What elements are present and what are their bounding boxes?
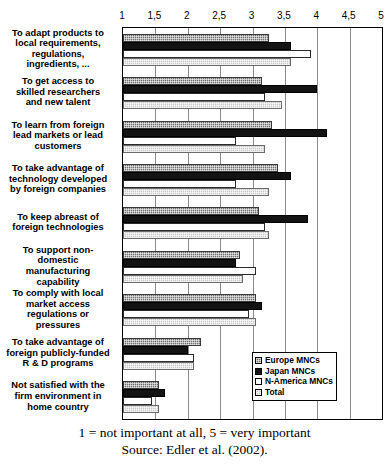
bar bbox=[123, 354, 194, 362]
category-label: To learn from foreignlead markets or lea… bbox=[0, 120, 116, 152]
category-label-line: by foreign companies bbox=[0, 184, 116, 195]
category-label-line: To take advantage of bbox=[0, 163, 116, 174]
category-label-line: To learn from foreign bbox=[0, 120, 116, 131]
category-label-line: regulations, bbox=[0, 49, 116, 60]
category-label-line: market access bbox=[0, 299, 116, 310]
x-tick-label: 1,5 bbox=[141, 10, 167, 22]
bar bbox=[123, 129, 327, 137]
legend-label: Japan MNCs bbox=[265, 367, 315, 376]
category-label-line: ingredients, ... bbox=[0, 59, 116, 70]
bar bbox=[123, 137, 236, 145]
bar bbox=[123, 34, 269, 42]
bar-group bbox=[123, 289, 382, 332]
category-label-line: To comply with local bbox=[0, 288, 116, 299]
x-tick-label: 5 bbox=[368, 10, 389, 22]
bar bbox=[123, 346, 188, 354]
bar bbox=[123, 77, 262, 85]
category-label: To take advantage oftechnology developed… bbox=[0, 163, 116, 195]
x-tick-label: 3,5 bbox=[271, 10, 297, 22]
category-label: To keep abreast offoreign technologies bbox=[0, 212, 116, 233]
bar bbox=[123, 121, 272, 129]
bar bbox=[123, 101, 282, 109]
scale-note: 1 = not important at all, 5 = very impor… bbox=[0, 424, 389, 441]
bar bbox=[123, 164, 278, 172]
category-label-line: customers bbox=[0, 141, 116, 152]
category-label-line: home country bbox=[0, 402, 116, 413]
bar-group bbox=[123, 28, 382, 71]
category-label-line: technology developed bbox=[0, 174, 116, 185]
bar bbox=[123, 231, 269, 239]
legend-item: Europe MNCs bbox=[255, 356, 333, 366]
legend-label: N-America MNCs bbox=[265, 377, 333, 386]
category-label: To adapt products tolocal requirements,r… bbox=[0, 28, 116, 70]
bar bbox=[123, 259, 236, 267]
source-note: Source: Edler et al. (2002). bbox=[0, 441, 389, 458]
bar bbox=[123, 172, 291, 180]
bar bbox=[123, 397, 152, 405]
legend-swatch-icon bbox=[255, 378, 262, 385]
x-tick-label: 2,5 bbox=[206, 10, 232, 22]
legend-label: Total bbox=[265, 388, 284, 397]
category-label-line: R & D programs bbox=[0, 358, 116, 369]
bar-chart: 11,522,533,544,55 To adapt products tolo… bbox=[0, 0, 389, 473]
legend-item: Total bbox=[255, 387, 333, 397]
bar bbox=[123, 145, 265, 153]
bar bbox=[123, 85, 317, 93]
chart-footer: 1 = not important at all, 5 = very impor… bbox=[0, 424, 389, 458]
category-label-line: To support non- bbox=[0, 245, 116, 256]
bar bbox=[123, 267, 256, 275]
category-label: To support non-domesticmanufacturingcapa… bbox=[0, 245, 116, 287]
category-label-line: lead markets or lead bbox=[0, 130, 116, 141]
legend-swatch-icon bbox=[255, 389, 262, 396]
category-label-line: domestic bbox=[0, 255, 116, 266]
category-label-line: pressures bbox=[0, 320, 116, 331]
category-label-line: To adapt products to bbox=[0, 28, 116, 39]
bar bbox=[123, 275, 243, 283]
category-label-line: firm environment in bbox=[0, 391, 116, 402]
bar bbox=[123, 251, 240, 259]
bar bbox=[123, 405, 159, 413]
category-label: To get access toskilled researchersand n… bbox=[0, 76, 116, 108]
bar bbox=[123, 362, 194, 370]
bar bbox=[123, 93, 265, 101]
category-label: To comply with localmarket accessregulat… bbox=[0, 288, 116, 330]
bar bbox=[123, 302, 262, 310]
x-tick-label: 4,5 bbox=[336, 10, 362, 22]
bar-group bbox=[123, 115, 382, 158]
category-label-line: To take advantage of bbox=[0, 337, 116, 348]
x-tick-label: 3 bbox=[239, 10, 265, 22]
category-label-line: local requirements, bbox=[0, 38, 116, 49]
x-axis-tick-labels: 11,522,533,544,55 bbox=[0, 10, 389, 27]
category-label: Not satisfied with thefirm environment i… bbox=[0, 380, 116, 412]
bar bbox=[123, 310, 249, 318]
bar bbox=[123, 180, 236, 188]
category-label-line: Not satisfied with the bbox=[0, 380, 116, 391]
x-tick-label: 4 bbox=[303, 10, 329, 22]
x-tick-label: 2 bbox=[174, 10, 200, 22]
bar bbox=[123, 223, 265, 231]
bar bbox=[123, 389, 165, 397]
category-label-line: skilled researchers bbox=[0, 87, 116, 98]
bar-group bbox=[123, 245, 382, 288]
bar-group bbox=[123, 71, 382, 114]
y-axis-category-labels: To adapt products tolocal requirements,r… bbox=[0, 27, 119, 418]
chart-legend: Europe MNCsJapan MNCsN-America MNCsTotal bbox=[252, 352, 337, 401]
legend-item: N-America MNCs bbox=[255, 377, 333, 387]
category-label-line: foreign technologies bbox=[0, 222, 116, 233]
category-label-line: To get access to bbox=[0, 76, 116, 87]
legend-item: Japan MNCs bbox=[255, 366, 333, 376]
bar bbox=[123, 318, 256, 326]
x-tick-label: 1 bbox=[109, 10, 135, 22]
bar bbox=[123, 58, 291, 66]
bar-group bbox=[123, 158, 382, 201]
bar-group bbox=[123, 202, 382, 245]
bar bbox=[123, 215, 308, 223]
category-label: To take advantage offoreign publicly-fun… bbox=[0, 337, 116, 369]
bar bbox=[123, 381, 159, 389]
bar bbox=[123, 207, 259, 215]
bar bbox=[123, 42, 291, 50]
category-label-line: To keep abreast of bbox=[0, 212, 116, 223]
legend-swatch-icon bbox=[255, 368, 262, 375]
category-label-line: foreign publicly-funded bbox=[0, 348, 116, 359]
bar bbox=[123, 50, 311, 58]
